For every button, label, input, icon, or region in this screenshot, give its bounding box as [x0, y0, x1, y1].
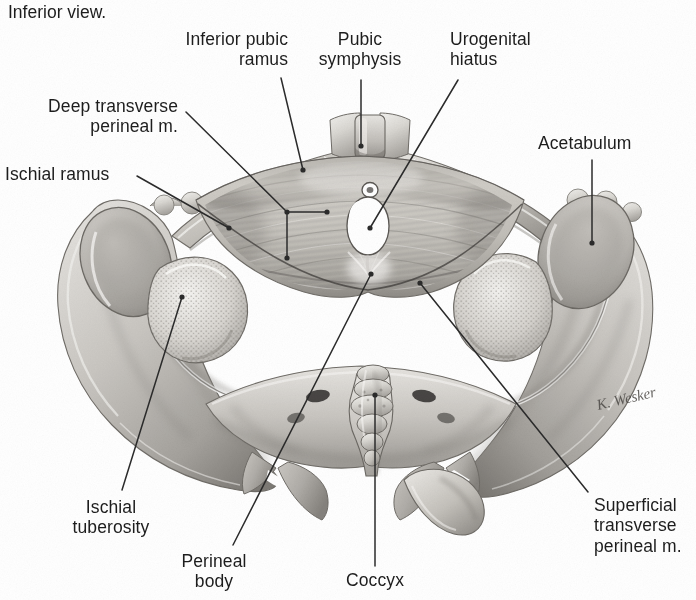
figure-caption: Inferior view. — [8, 2, 106, 23]
label-line: Superficial — [594, 495, 682, 515]
label-line: ramus — [185, 49, 288, 69]
label-line: Urogenital — [450, 29, 531, 49]
label-line: transverse — [594, 515, 682, 535]
label-line: Deep transverse — [48, 96, 178, 116]
label-line: hiatus — [450, 49, 531, 69]
label-perineal-body: Perinealbody — [181, 551, 246, 592]
label-line: Ischial — [73, 497, 150, 517]
label-line: body — [181, 571, 246, 591]
label-coccyx: Coccyx — [346, 570, 404, 590]
label-deep-transverse-perineal-m: Deep transverseperineal m. — [48, 96, 178, 137]
label-acetabulum: Acetabulum — [538, 133, 631, 153]
label-line: Perineal — [181, 551, 246, 571]
label-ischial-ramus: Ischial ramus — [5, 164, 109, 184]
label-line: tuberosity — [73, 517, 150, 537]
label-urogenital-hiatus: Urogenitalhiatus — [450, 29, 531, 70]
label-line: perineal m. — [48, 116, 178, 136]
label-line: Coccyx — [346, 570, 404, 590]
label-line: Inferior pubic — [185, 29, 288, 49]
label-superficial-transverse-perineal-m: Superficialtransverseperineal m. — [594, 495, 682, 556]
label-line: symphysis — [319, 49, 402, 69]
label-line: perineal m. — [594, 536, 682, 556]
label-line: Ischial ramus — [5, 164, 109, 184]
anatomy-figure: K. Wesker Inferior view. Inferior pubicr… — [0, 0, 696, 600]
label-pubic-symphysis: Pubicsymphysis — [319, 29, 402, 70]
label-inferior-pubic-ramus: Inferior pubicramus — [185, 29, 288, 70]
label-line: Pubic — [319, 29, 402, 49]
label-line: Acetabulum — [538, 133, 631, 153]
label-ischial-tuberosity: Ischialtuberosity — [73, 497, 150, 538]
